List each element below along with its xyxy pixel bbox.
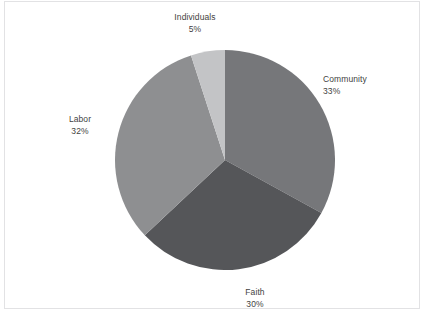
pie-label-faith: Faith 30%: [200, 287, 310, 310]
pie-slices: [115, 50, 335, 270]
pie-label-individuals-value: 5%: [135, 24, 255, 36]
pie-label-individuals-name: Individuals: [135, 12, 255, 24]
pie-label-community-value: 33%: [323, 86, 423, 98]
pie-label-individuals: Individuals 5%: [135, 12, 255, 35]
pie-chart: [115, 50, 335, 270]
pie-label-faith-value: 30%: [200, 299, 310, 311]
chart-frame: Individuals 5% Community 33% Labor 32% F…: [4, 1, 420, 309]
pie-label-community: Community 33%: [323, 74, 423, 97]
pie-label-labor: Labor 32%: [35, 114, 125, 137]
pie-label-community-name: Community: [323, 74, 423, 86]
pie-label-labor-name: Labor: [35, 114, 125, 126]
pie-label-labor-value: 32%: [35, 126, 125, 138]
pie-svg: [115, 50, 335, 270]
pie-label-faith-name: Faith: [200, 287, 310, 299]
pie-chart-screenshot: Individuals 5% Community 33% Labor 32% F…: [0, 0, 423, 320]
